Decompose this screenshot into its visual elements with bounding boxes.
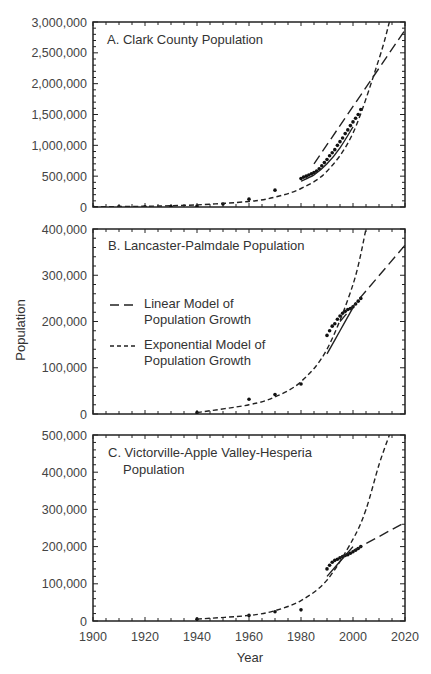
linear-model-line (340, 245, 405, 321)
data-point (336, 144, 340, 148)
x-tick-label: 1940 (183, 630, 211, 644)
panel-a-title: A. Clark County Population (107, 32, 263, 47)
data-point (325, 158, 329, 162)
x-tick-label: 1960 (235, 630, 263, 644)
y-tick-label: 2,000,000 (31, 77, 87, 91)
y-tick-label: 100,000 (42, 577, 87, 591)
x-tick-label: 1900 (79, 630, 107, 644)
y-tick-label: 1,000,000 (31, 139, 87, 153)
data-point (333, 322, 337, 326)
data-point (273, 610, 277, 614)
data-point (247, 397, 251, 401)
legend-linear-label-1: Linear Model of (144, 296, 234, 311)
y-tick-label: 0 (80, 408, 87, 422)
x-tick-label: 2000 (339, 630, 367, 644)
y-axis-title: Population (13, 299, 28, 360)
y-tick-label: 3,000,000 (31, 16, 87, 30)
y-tick-label: 200,000 (42, 540, 87, 554)
data-point (351, 120, 355, 124)
x-tick-label: 2020 (391, 630, 419, 644)
data-point (356, 299, 360, 303)
data-point (349, 124, 353, 128)
data-point (343, 132, 347, 136)
data-point (336, 317, 340, 321)
data-point (354, 116, 358, 120)
population-growth-figure: 0500,0001,000,0001,500,0002,000,0002,500… (0, 0, 431, 674)
legend-exponential-label-1: Exponential Model of (144, 337, 266, 352)
exponential-model-line (197, 435, 389, 619)
data-point (325, 567, 329, 571)
data-point (338, 140, 342, 144)
data-point (346, 128, 350, 132)
data-point (328, 563, 332, 567)
data-point (247, 197, 251, 201)
x-axis-title: Year (237, 650, 264, 665)
legend-linear-label-2: Population Growth (144, 312, 251, 327)
data-point (333, 148, 337, 152)
y-tick-label: 300,000 (42, 503, 87, 517)
x-tick-label: 1980 (287, 630, 315, 644)
x-tick-label: 1920 (131, 630, 159, 644)
linear-model-line (314, 30, 405, 164)
exponential-model-line (93, 22, 389, 207)
y-tick-label: 300,000 (42, 269, 87, 283)
y-tick-label: 2,500,000 (31, 46, 87, 60)
legend: Linear Model of Population Growth Expone… (110, 296, 266, 368)
y-tick-label: 1,500,000 (31, 108, 87, 122)
panel-b-title: B. Lancaster-Palmdale Population (108, 238, 305, 253)
y-tick-label: 0 (80, 615, 87, 629)
panel-c: 0100,000200,000300,000400,000500,0001900… (42, 429, 419, 645)
data-point (330, 151, 334, 155)
y-tick-label: 400,000 (42, 466, 87, 480)
data-point (341, 136, 345, 140)
legend-exponential-label-2: Population Growth (144, 353, 251, 368)
y-tick-label: 500,000 (42, 429, 87, 443)
data-point (299, 608, 303, 612)
y-tick-label: 500,000 (42, 170, 87, 184)
data-point (328, 154, 332, 158)
data-point (323, 161, 327, 165)
data-point (325, 334, 329, 338)
panel-c-title-line2: Population (123, 462, 184, 477)
y-tick-label: 0 (80, 201, 87, 215)
panel-c-title-line1: C. Victorville-Apple Valley-Hesperia (108, 445, 313, 460)
y-tick-label: 100,000 (42, 361, 87, 375)
y-tick-label: 200,000 (42, 315, 87, 329)
data-point (328, 329, 332, 333)
data-point (273, 188, 277, 192)
y-tick-label: 400,000 (42, 223, 87, 237)
